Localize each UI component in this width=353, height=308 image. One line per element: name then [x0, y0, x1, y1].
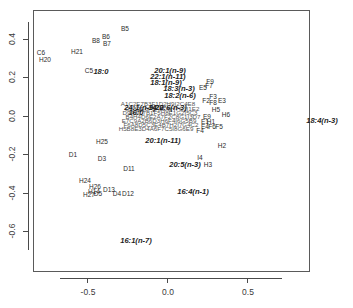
x-tick-mark: [247, 278, 248, 283]
y-tick-label: -0.6: [7, 220, 17, 242]
data-point-label: D12: [122, 191, 134, 198]
y-tick-mark: [23, 39, 28, 40]
data-point-label: H3: [204, 162, 212, 169]
variable-label: 18:0: [93, 68, 108, 76]
data-point-label: H21: [71, 49, 83, 56]
y-tick-label: 0.2: [7, 68, 17, 86]
y-tick-mark: [23, 116, 28, 117]
data-point-label: D5: [94, 191, 102, 198]
scatter-plot-figure: 0.4 0.2 0.0 -0.2 -0.4 -0.6 -0.5 0.0 0.5 …: [0, 0, 353, 308]
variable-label: 16:1(n-7): [120, 237, 152, 245]
variable-label: 20:5(n-3): [169, 161, 201, 169]
data-point-label: D4: [113, 191, 121, 198]
y-tick-mark: [23, 193, 28, 194]
y-tick-label: 0.0: [7, 107, 17, 125]
data-point-label: F5: [215, 124, 223, 131]
data-point-label: D3: [98, 156, 106, 163]
x-tick-label: 0.0: [155, 287, 181, 297]
data-point-label: H20: [39, 57, 51, 64]
y-tick-mark: [23, 154, 28, 155]
data-point-label: B5: [121, 26, 129, 33]
y-tick-mark: [23, 231, 28, 232]
data-point-label: H6: [222, 112, 230, 119]
data-point-label: E3: [218, 98, 226, 105]
variable-label: 16:0: [128, 109, 143, 117]
data-point-label: C5: [85, 68, 93, 75]
x-tick-mark: [87, 278, 88, 283]
data-point-label: F3: [209, 94, 217, 101]
y-tick-label: -0.4: [7, 182, 17, 204]
x-tick-label: 0.5: [235, 287, 261, 297]
data-point-label: H25: [96, 139, 108, 146]
y-axis-line: [28, 22, 29, 250]
x-tick-mark: [167, 278, 168, 283]
y-tick-label: -0.2: [7, 143, 17, 165]
data-point-label: F8: [209, 100, 217, 107]
x-tick-label: -0.5: [75, 287, 101, 297]
variable-label: 18:4(n-3): [306, 117, 338, 125]
data-point-label: D1: [69, 152, 77, 159]
data-point-label: F4: [196, 128, 204, 135]
data-point-label: D11: [123, 166, 134, 173]
data-point-label: H5: [212, 107, 220, 114]
dense-cluster-labels: H5B8E3D4A6F7C5I8G6E9: [119, 126, 194, 132]
data-point-label: H2: [218, 143, 226, 150]
y-tick-label: 0.4: [7, 30, 17, 48]
variable-label: 16:4(n-1): [177, 188, 209, 196]
x-axis-line: [60, 278, 282, 279]
variable-label: 18:2(n-6): [164, 92, 196, 100]
data-point-label: B8: [92, 38, 100, 45]
variable-label: 22:6(n-3): [155, 104, 187, 112]
y-tick-mark: [23, 77, 28, 78]
variable-label: 20:1(n-11): [145, 137, 180, 145]
data-point-label: E5: [199, 85, 207, 92]
data-point-label: B7: [103, 41, 111, 48]
